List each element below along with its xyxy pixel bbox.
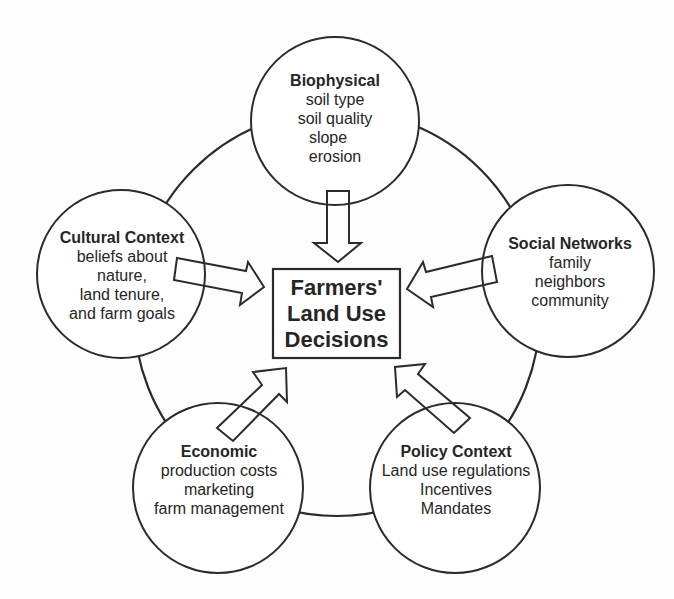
node-title: Social Networks — [508, 234, 632, 253]
node-item: farm management — [154, 499, 284, 518]
node-item: production costs — [161, 461, 278, 480]
node-item: soil type — [306, 90, 365, 109]
node-item: marketing — [184, 480, 254, 499]
node-item: neighbors — [535, 272, 605, 291]
node-title: Economic — [181, 442, 257, 461]
node-item: and farm goals — [69, 304, 175, 323]
node-biophysical: Biophysical soil type soil quality slope… — [255, 70, 415, 166]
node-item: family — [549, 253, 591, 272]
node-title: Policy Context — [400, 442, 511, 461]
node-title: Biophysical — [290, 71, 380, 90]
node-item: soil quality — [298, 109, 373, 128]
node-cultural-context: Cultural Context beliefs about nature, l… — [42, 226, 202, 324]
node-item: slope — [309, 128, 347, 147]
node-item: land tenure, — [80, 285, 165, 304]
node-policy-context: Policy Context Land use regulations Ince… — [375, 440, 537, 520]
node-title: Cultural Context — [60, 228, 184, 247]
center-line: Decisions — [285, 327, 389, 353]
node-item: Mandates — [421, 499, 491, 518]
node-item: community — [531, 291, 608, 310]
center-line: Land Use — [287, 301, 386, 327]
center-line: Farmers' — [290, 275, 382, 301]
node-economic: Economic production costs marketing farm… — [138, 440, 300, 520]
node-item: nature, — [97, 266, 147, 285]
node-social-networks: Social Networks family neighbors communi… — [490, 232, 650, 312]
node-item: beliefs about — [77, 247, 168, 266]
center-label: Farmers' Land Use Decisions — [273, 269, 400, 358]
node-item: Land use regulations — [382, 461, 531, 480]
node-item: erosion — [309, 147, 361, 166]
node-item: Incentives — [420, 480, 492, 499]
diagram-canvas: Farmers' Land Use Decisions Biophysical … — [0, 0, 674, 599]
